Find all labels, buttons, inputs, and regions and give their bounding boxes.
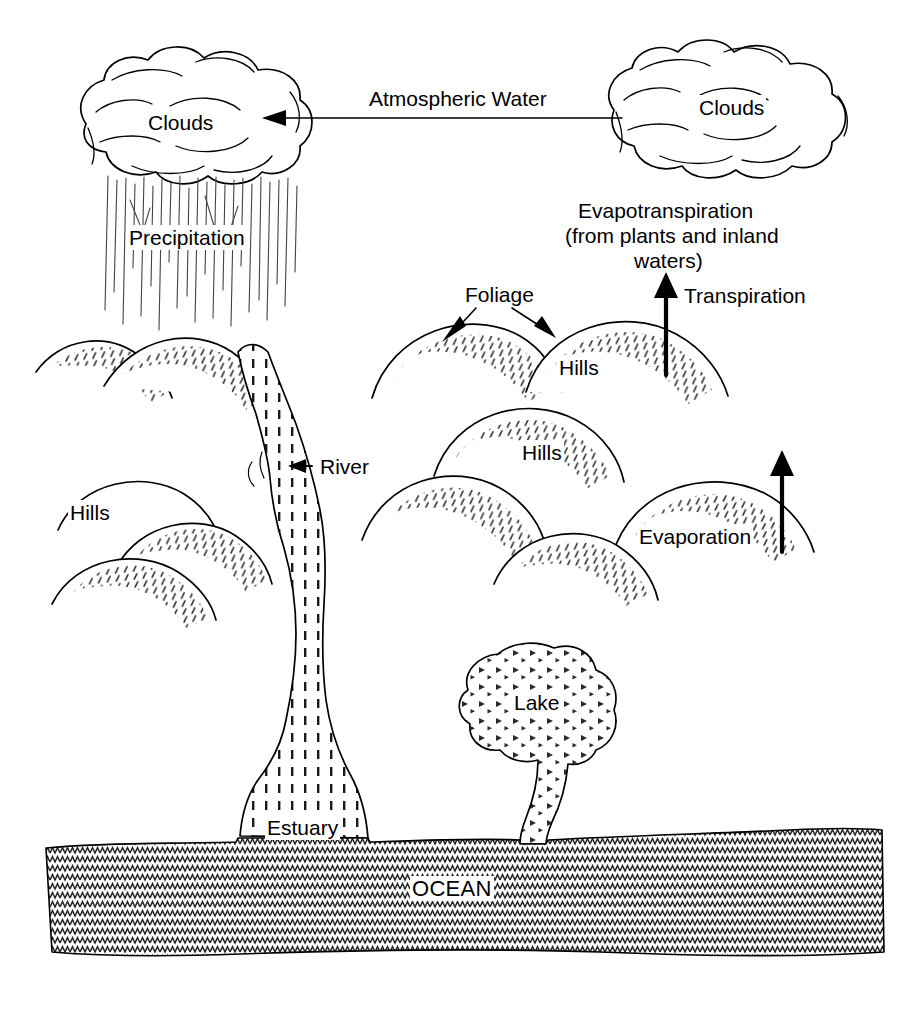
water-cycle-diagram-canvas	[0, 0, 908, 1015]
lake-shape	[459, 643, 616, 844]
label-transpiration: Transpiration	[682, 283, 808, 308]
label-precipitation: Precipitation	[127, 225, 247, 250]
label-evaporation: Evaporation	[637, 524, 753, 549]
label-foliage: Foliage	[463, 282, 536, 307]
hill-shape	[362, 476, 546, 556]
label-lake: Lake	[512, 690, 562, 715]
label-hills-left: Hills	[68, 500, 112, 525]
label-hills-upper-right: Hills	[557, 355, 601, 380]
water-cycle-figure: Clouds Clouds Atmospheric Water Precipit…	[0, 0, 908, 1015]
atmospheric-water-arrow	[262, 110, 622, 126]
label-river: River	[318, 454, 371, 479]
label-evapotranspiration-line3: waters)	[632, 248, 705, 273]
label-ocean: OCEAN	[410, 876, 494, 901]
label-estuary: Estuary	[265, 815, 340, 840]
river-shape	[238, 345, 368, 839]
label-clouds-left: Clouds	[146, 110, 215, 135]
label-evapotranspiration-line1: Evapotranspiration	[576, 198, 755, 223]
precipitation-rain	[105, 176, 297, 330]
label-hills-middle: Hills	[520, 440, 564, 465]
label-evapotranspiration-line2: (from plants and inland	[563, 223, 781, 248]
label-atmospheric-water: Atmospheric Water	[367, 86, 549, 111]
label-clouds-right: Clouds	[697, 95, 766, 120]
